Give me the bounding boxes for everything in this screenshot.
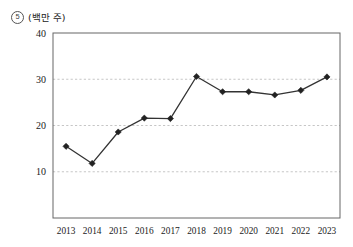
y-tick-label: 20 [36, 120, 46, 131]
x-tick-label: 2017 [161, 226, 180, 236]
x-tick-label: 2018 [187, 226, 206, 236]
y-tick-label: 40 [36, 28, 46, 39]
y-tick-label: 10 [36, 166, 46, 177]
data-point-marker [141, 115, 147, 121]
x-tick-label: 2014 [83, 226, 102, 236]
line-chart-canvas: 10203040 2013201420152016201720182019202… [0, 0, 353, 247]
x-tick-label: 2020 [239, 226, 258, 236]
chart-figure: 5 (백만 주) 10203040 2013201420152016201720… [0, 0, 353, 247]
x-tick-label: 2019 [213, 226, 232, 236]
data-point-marker [324, 74, 330, 80]
data-point-marker [193, 73, 199, 79]
y-tick-label: 30 [36, 74, 46, 85]
series-polyline [66, 76, 327, 163]
data-point-marker [219, 89, 225, 95]
data-point-marker [272, 92, 278, 98]
data-point-marker [246, 89, 252, 95]
data-series-line [66, 76, 327, 163]
y-axis-tick-labels: 10203040 [36, 28, 46, 178]
data-point-marker [167, 115, 173, 121]
data-series-markers [63, 73, 330, 166]
x-tick-label: 2022 [292, 226, 311, 236]
x-tick-label: 2023 [318, 226, 337, 236]
x-tick-label: 2016 [135, 226, 154, 236]
x-axis-tick-labels: 2013201420152016201720182019202020212022… [57, 226, 337, 236]
data-point-marker [298, 87, 304, 93]
x-tick-label: 2015 [109, 226, 128, 236]
x-tick-label: 2013 [57, 226, 76, 236]
x-tick-label: 2021 [265, 226, 284, 236]
